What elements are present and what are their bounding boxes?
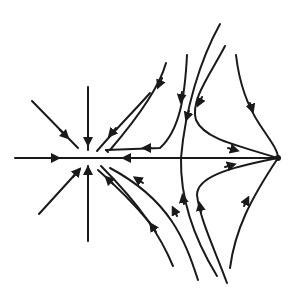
phase-portrait-diagram	[0, 0, 296, 293]
upper-trajectories	[106, 55, 187, 152]
right-node-trajectories	[195, 46, 278, 283]
lower-trajectories	[101, 166, 198, 280]
right-node	[275, 155, 281, 161]
left-node-rays	[32, 87, 150, 241]
